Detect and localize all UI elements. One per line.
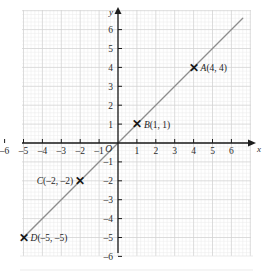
point-label-a: A(4, 4) bbox=[200, 63, 227, 74]
x-tick-label: –3 bbox=[56, 146, 67, 156]
origin-label: O bbox=[105, 144, 112, 154]
x-tick-label: 4 bbox=[191, 146, 196, 156]
point-marker-x-icon: ✕ bbox=[132, 117, 142, 131]
plotted-point-d: ✕D(–5, –5) bbox=[19, 231, 68, 245]
y-tick-label: 1 bbox=[108, 120, 113, 130]
point-marker-x-icon: ✕ bbox=[75, 174, 85, 188]
y-tick-label: –3 bbox=[103, 195, 114, 205]
y-axis-label: y bbox=[108, 7, 113, 17]
point-label-c: C(–2, –2) bbox=[37, 176, 73, 187]
y-tick-label: –1 bbox=[103, 157, 114, 167]
x-tick-label: –6 bbox=[0, 146, 10, 156]
y-tick-label: –6 bbox=[103, 252, 114, 262]
y-tick-label: –5 bbox=[103, 233, 114, 243]
x-tick-label: 3 bbox=[172, 146, 177, 156]
x-tick-label: 2 bbox=[153, 146, 158, 156]
y-tick-label: 6 bbox=[108, 25, 113, 35]
coordinate-plane-svg: –6–5–4–3–2–1123456 654321–1–2–3–4–5–6 O … bbox=[0, 0, 273, 278]
point-marker-x-icon: ✕ bbox=[189, 61, 199, 75]
y-tick-label: 2 bbox=[108, 101, 113, 111]
y-tick-label: 4 bbox=[108, 63, 113, 73]
point-label-d: D(–5, –5) bbox=[30, 233, 68, 244]
x-tick-label: 6 bbox=[229, 146, 234, 156]
x-tick-label: –4 bbox=[37, 146, 48, 156]
x-tick-label: –1 bbox=[93, 146, 104, 156]
y-tick-label: –4 bbox=[103, 214, 114, 224]
graph-figure: –6–5–4–3–2–1123456 654321–1–2–3–4–5–6 O … bbox=[0, 0, 273, 278]
y-tick-label: 5 bbox=[108, 44, 113, 54]
y-tick-label: –2 bbox=[103, 176, 114, 186]
plotted-point-a: ✕A(4, 4) bbox=[189, 61, 227, 75]
x-tick-label: –5 bbox=[18, 146, 29, 156]
plotted-point-b: ✕B(1, 1) bbox=[132, 117, 170, 131]
point-marker-x-icon: ✕ bbox=[19, 231, 29, 245]
x-tick-label: 1 bbox=[135, 146, 140, 156]
x-axis-label: x bbox=[256, 144, 261, 154]
point-label-b: B(1, 1) bbox=[144, 120, 170, 131]
y-tick-label: 3 bbox=[108, 82, 113, 92]
x-tick-label: 5 bbox=[210, 146, 215, 156]
plotted-point-c: ✕C(–2, –2) bbox=[37, 174, 85, 188]
x-tick-label: –2 bbox=[74, 146, 85, 156]
